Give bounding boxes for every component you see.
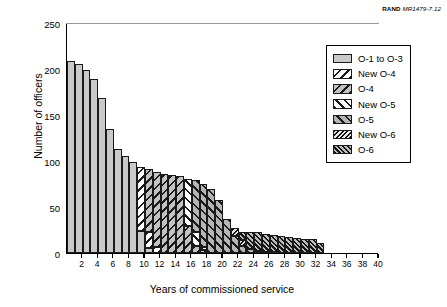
y-tick-label: 200 <box>30 65 60 76</box>
bar-segment <box>246 232 254 249</box>
bar-segment <box>145 169 153 232</box>
x-tick-label: 40 <box>366 259 390 269</box>
bar-segment <box>114 149 122 253</box>
x-tick-mark <box>143 254 144 258</box>
bar-column <box>106 129 114 253</box>
bar-segment <box>239 246 247 253</box>
y-tick-label: 100 <box>30 157 60 168</box>
bar-column <box>239 232 247 253</box>
rand-organization-label: RAND <box>382 5 400 12</box>
bar-column <box>278 236 286 253</box>
bar-column <box>98 98 106 253</box>
bar-segment <box>231 228 239 235</box>
legend-swatch <box>333 99 352 109</box>
bar-column <box>223 219 231 253</box>
bar-column <box>317 243 325 253</box>
bar-column <box>83 70 91 253</box>
legend-item: O-5 <box>333 112 403 127</box>
bar-column <box>192 180 200 253</box>
bar-segment <box>246 249 254 253</box>
bar-segment <box>254 232 262 251</box>
bar-segment <box>293 238 301 253</box>
bar-segment <box>90 79 98 253</box>
y-tick-label: 150 <box>30 111 60 122</box>
bar-segment <box>231 236 239 253</box>
bar-segment <box>168 175 176 253</box>
bar-segment <box>200 247 208 251</box>
rand-document-id: MR1479-7.12 <box>402 5 441 12</box>
x-tick-mark <box>362 254 363 258</box>
bar-column <box>168 175 176 253</box>
bar-column <box>153 172 161 253</box>
legend-label: O-1 to O-3 <box>358 53 403 64</box>
bar-segment <box>83 70 91 253</box>
chart-legend: O-1 to O-3New O-4O-4New O-5O-5New O-6O-6 <box>326 45 411 163</box>
x-tick-mark <box>221 254 222 258</box>
bar-segment <box>137 231 145 253</box>
bar-segment <box>129 162 137 253</box>
legend-swatch <box>333 69 352 79</box>
bar-column <box>129 162 137 253</box>
bar-segment <box>215 200 223 253</box>
x-tick-mark <box>97 254 98 258</box>
x-tick-mark <box>253 254 254 258</box>
x-tick-mark <box>377 254 378 258</box>
bar-column <box>75 64 83 253</box>
y-tick-label: 250 <box>30 19 60 30</box>
x-tick-mark <box>112 254 113 258</box>
bar-column <box>114 149 122 253</box>
x-tick-mark <box>299 254 300 258</box>
bar-segment <box>122 156 130 253</box>
bar-segment <box>145 232 153 249</box>
legend-label: New O-6 <box>358 129 395 140</box>
bar-segment <box>223 219 231 253</box>
bar-column <box>200 184 208 253</box>
bar-segment <box>278 236 286 253</box>
x-tick-mark <box>175 254 176 258</box>
legend-swatch <box>333 84 352 94</box>
rand-credit: RAND MR1479-7.12 <box>382 5 441 12</box>
bar-column <box>270 235 278 253</box>
x-tick-mark <box>128 254 129 258</box>
bar-segment <box>254 251 262 253</box>
bar-column <box>122 156 130 253</box>
legend-label: New O-4 <box>358 68 395 79</box>
bar-segment <box>137 167 145 231</box>
bar-column <box>90 79 98 253</box>
bar-column <box>309 239 317 253</box>
bar-segment <box>145 248 153 253</box>
bar-segment <box>262 234 270 252</box>
bar-column <box>145 169 153 253</box>
bar-segment <box>106 129 114 253</box>
bar-segment <box>207 189 215 253</box>
y-tick-label: 0 <box>30 249 60 260</box>
bar-segment <box>153 247 161 253</box>
legend-item: O-1 to O-3 <box>333 51 403 66</box>
legend-label: O-5 <box>358 114 374 125</box>
bar-column <box>137 167 145 253</box>
bar-column <box>246 232 254 253</box>
bar-column <box>262 234 270 253</box>
y-tick-label: 50 <box>30 203 60 214</box>
legend-item: New O-5 <box>333 97 403 112</box>
legend-item: O-6 <box>333 142 403 157</box>
x-tick-mark <box>159 254 160 258</box>
bar-column <box>293 238 301 253</box>
bar-segment <box>67 61 75 253</box>
bar-segment <box>200 184 208 247</box>
legend-item: New O-4 <box>333 66 403 81</box>
bar-segment <box>200 250 208 253</box>
bar-segment <box>317 243 325 253</box>
bar-segment <box>309 239 317 253</box>
bar-segment <box>161 174 169 253</box>
bar-segment <box>192 246 200 253</box>
x-tick-mark <box>284 254 285 258</box>
bar-segment <box>239 232 247 240</box>
legend-label: O-4 <box>358 83 374 94</box>
bar-column <box>67 61 75 253</box>
bar-column <box>161 174 169 253</box>
bar-column <box>176 176 184 253</box>
bar-segment <box>75 64 83 253</box>
x-tick-mark <box>268 254 269 258</box>
bar-segment <box>153 172 161 247</box>
